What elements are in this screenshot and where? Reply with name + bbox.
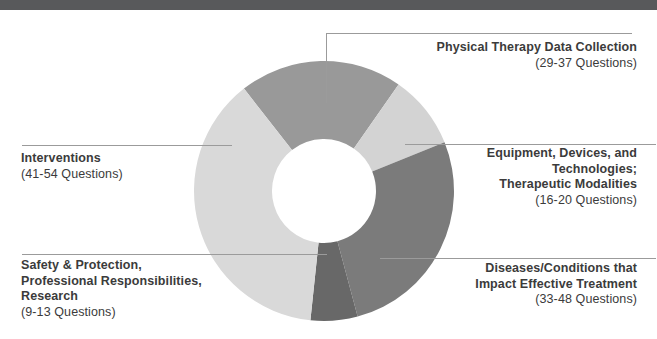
- leader-safety: [22, 254, 327, 255]
- segment-diseases-conditions: [337, 142, 454, 316]
- label-line: Interventions: [21, 151, 123, 167]
- leader-pt-vertical: [326, 33, 327, 103]
- label-pt-data-collection: Physical Therapy Data Collection (29-37 …: [437, 40, 637, 71]
- label-line: Impact Effective Treatment: [475, 277, 637, 293]
- label-question-range: (16-20 Questions): [487, 193, 637, 209]
- label-question-range: (29-37 Questions): [437, 56, 637, 72]
- leader-diseases: [380, 258, 656, 259]
- label-line: Research: [21, 289, 202, 305]
- infographic-canvas: Physical Therapy Data Collection (29-37 …: [0, 0, 657, 339]
- label-line: Safety & Protection,: [21, 258, 202, 274]
- label-question-range: (9-13 Questions): [21, 305, 202, 321]
- label-line: Therapeutic Modalities: [487, 177, 637, 193]
- label-safety-protection-research: Safety & Protection, Professional Respon…: [21, 258, 202, 320]
- label-question-range: (41-54 Questions): [21, 167, 123, 183]
- label-diseases-conditions: Diseases/Conditions that Impact Effectiv…: [475, 261, 637, 308]
- label-line: Technologies;: [487, 162, 637, 178]
- label-question-range: (33-48 Questions): [475, 292, 637, 308]
- leader-pt-horizontal: [326, 33, 632, 34]
- label-line: Physical Therapy Data Collection: [437, 40, 637, 56]
- label-interventions: Interventions (41-54 Questions): [21, 151, 123, 182]
- label-line: Equipment, Devices, and: [487, 146, 637, 162]
- label-line: Professional Responsibilities,: [21, 274, 202, 290]
- leader-interventions: [22, 145, 232, 146]
- label-line: Diseases/Conditions that: [475, 261, 637, 277]
- leader-equipment: [405, 144, 656, 145]
- label-equipment-technologies: Equipment, Devices, and Technologies; Th…: [487, 146, 637, 208]
